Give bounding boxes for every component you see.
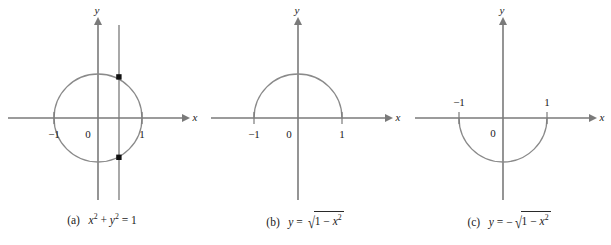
y-axis-label: y (294, 4, 300, 16)
panel-b-caption-one: 1 (315, 215, 321, 227)
panel-c-svg: −1 1 0 x y (407, 0, 611, 208)
panel-c-caption-minus: − (530, 215, 537, 227)
y-axis-arrow-icon (94, 17, 102, 25)
x-axis-label: x (192, 111, 198, 123)
panel-a-caption-plus: + (100, 214, 107, 226)
x-axis-arrow-icon (589, 114, 597, 122)
x-axis-label: x (599, 111, 605, 123)
x-tick-label-left: −1 (48, 128, 60, 140)
panel-a-caption: (a) x2 + y2 = 1 (0, 212, 204, 228)
panel-b-caption-x-exponent: 2 (338, 213, 342, 222)
panel-a-caption-equals: = (122, 214, 129, 226)
panel-c-caption-equals: = (497, 216, 504, 228)
panel-b: −1 1 0 x y (b) y = √1 − x2 (203, 0, 407, 245)
origin-label: 0 (85, 128, 91, 140)
panel-a: −1 1 0 x y (a) x2 + y2 = 1 (0, 0, 204, 245)
y-axis-label: y (94, 4, 100, 16)
panel-b-radicand: 1 − x2 (314, 211, 344, 229)
x-axis-label: x (395, 111, 401, 123)
panel-c-caption-y: y (489, 216, 494, 228)
panel-c-radicand: 1 − x2 (521, 211, 551, 229)
y-axis-label: y (499, 4, 505, 16)
vertical-line-test-figure: −1 1 0 x y (a) x2 + y2 = 1 (0, 0, 611, 245)
origin-label: 0 (286, 128, 292, 140)
panel-c-caption-one: 1 (522, 215, 528, 227)
x-tick-label-left: −1 (248, 128, 260, 140)
panel-b-radical: √1 − x2 (306, 212, 344, 230)
panel-b-caption-minus: − (323, 215, 330, 227)
panel-c: −1 1 0 x y (c) y = −√1 − x2 (407, 0, 611, 245)
x-axis-arrow-icon (385, 114, 393, 122)
panel-b-caption-y: y (288, 216, 293, 228)
panel-a-caption-x-exponent: 2 (94, 212, 98, 221)
panel-c-radical: √1 − x2 (513, 212, 551, 230)
panel-b-tag: (b) (266, 216, 279, 228)
panel-b-caption: (b) y = √1 − x2 (203, 212, 407, 230)
x-tick-label-right: 1 (339, 128, 345, 140)
y-axis-arrow-icon (499, 17, 507, 25)
x-axis-arrow-icon (182, 114, 190, 122)
panel-b-plot: −1 1 0 x y (203, 0, 407, 208)
panel-b-svg: −1 1 0 x y (203, 0, 407, 208)
panel-a-caption-y-exponent: 2 (115, 212, 119, 221)
intersection-point-upper (116, 74, 121, 79)
panel-c-tag: (c) (467, 216, 480, 228)
panel-a-plot: −1 1 0 x y (0, 0, 204, 208)
panel-a-tag: (a) (67, 214, 80, 226)
panel-c-caption-x-exponent: 2 (545, 213, 549, 222)
panel-b-caption-equals: = (296, 216, 303, 228)
x-tick-label-right: 1 (139, 128, 145, 140)
origin-label: 0 (490, 127, 496, 139)
intersection-point-lower (116, 155, 121, 160)
x-tick-label-right: 1 (544, 96, 550, 108)
panel-c-plot: −1 1 0 x y (407, 0, 611, 208)
x-tick-label-left: −1 (453, 96, 465, 108)
panel-a-caption-one: 1 (131, 214, 137, 226)
y-axis-arrow-icon (294, 17, 302, 25)
panel-a-svg: −1 1 0 x y (0, 0, 204, 208)
panel-c-caption: (c) y = −√1 − x2 (407, 212, 611, 230)
